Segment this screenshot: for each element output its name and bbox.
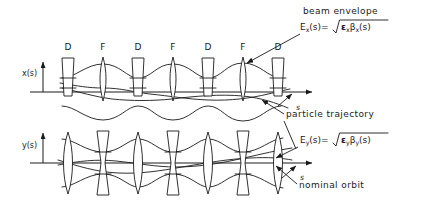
y-axis-label: y(s) [22,141,37,150]
lower-plot-y [30,131,312,195]
beam-envelope-label: beam envelope [303,6,378,16]
magnet-d-3-lower [204,132,213,194]
formula-y-radical-arg: (s) [359,135,371,145]
beam-envelope-diagram: D F D F D F D x(s) y(s) s s beam envelop… [0,0,427,212]
svg-text:Ey(s)=: Ey(s)= [300,135,329,147]
lower-s-direction-arrow [282,166,296,178]
magnet-label-3: D [134,42,141,52]
magnet-d-4-lower [274,132,283,194]
magnet-d-2-upper [132,58,144,96]
nominal-orbit-label: nominal orbit [299,180,364,190]
upper-magnet-row [62,57,284,101]
svg-text:εyβy(s): εyβy(s) [341,135,371,147]
leader-particle-trajectory-lower [284,121,296,149]
envelope-x-lower [62,106,281,121]
svg-text:Ex(s)=: Ex(s)= [300,22,329,33]
magnet-f-2-upper [170,57,176,101]
particle-trajectory-label: particle trajectory [286,109,374,119]
magnet-f-3-upper [240,57,246,101]
magnet-d-1-upper [62,58,74,96]
magnet-f-1-upper [100,57,106,101]
formula-x-radical-arg: (s) [359,22,371,32]
upper-plot-x [30,57,312,121]
svg-text:εxβx(s): εxβx(s) [341,22,371,33]
magnet-labels: D F D F D F D [64,42,281,52]
magnet-d-4-upper [272,58,284,96]
envelope-x-formula: Ex(s)= εxβx(s) [300,20,388,33]
formula-y-arg: (s)= [309,135,328,145]
x-axis-label: x(s) [22,69,37,78]
magnet-label-4: F [170,42,175,52]
envelope-y-formula: Ey(s)= εyβy(s) [300,133,388,147]
magnet-label-1: D [64,42,71,52]
magnet-d-2-lower [134,132,143,194]
magnet-label-7: D [274,42,281,52]
magnet-d-3-upper [202,58,214,96]
magnet-label-6: F [240,42,245,52]
formula-x-arg: (s)= [309,22,328,32]
magnet-label-5: D [204,42,211,52]
magnet-label-2: F [100,42,105,52]
